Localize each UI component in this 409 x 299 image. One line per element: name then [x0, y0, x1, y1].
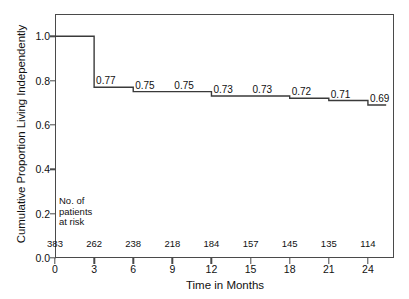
x-axis-title: Time in Months [55, 279, 395, 291]
survival-curve [0, 0, 409, 299]
survival-curve-path [55, 36, 386, 105]
kaplan-meier-figure: Cumulative Proportion Living Independent… [0, 0, 409, 299]
